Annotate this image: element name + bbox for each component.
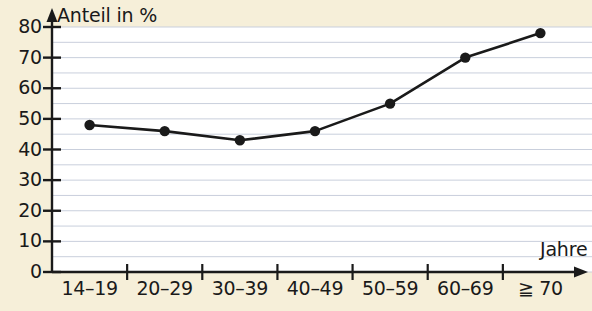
chart-canvas [0,0,592,311]
data-point [235,135,245,145]
y-tick-label: 20 [2,199,42,221]
x-tick-label: 30–39 [202,277,277,299]
y-tick-label: 50 [2,107,42,129]
y-tick-label: 10 [2,229,42,251]
y-tick-label: 70 [2,46,42,68]
x-tick-label: 40–49 [277,277,352,299]
x-tick-label: 20–29 [127,277,202,299]
data-point [460,52,470,62]
chart-figure: Anteil in % Jahre 01020304050607080 14–1… [0,0,592,311]
x-tick-label: 60–69 [428,277,503,299]
y-tick-label: 80 [2,15,42,37]
x-tick-label: 50–59 [353,277,428,299]
x-axis-arrow [574,267,588,278]
data-point [310,126,320,136]
data-line [90,33,541,140]
x-tick-label: ≧ 70 [503,277,578,299]
data-point [535,28,545,38]
x-tick-label: 14–19 [52,277,127,299]
data-markers [84,28,545,146]
y-tick-label: 0 [2,260,42,282]
data-point [385,98,395,108]
minor-gridlines [52,27,592,272]
y-tick-label: 60 [2,76,42,98]
y-tick-label: 30 [2,168,42,190]
data-point [160,126,170,136]
data-point [84,120,94,130]
y-axis-title: Anteil in % [57,4,157,26]
y-tick-label: 40 [2,138,42,160]
x-axis-title: Jahre [540,238,587,260]
y-axis-arrow [47,8,58,22]
